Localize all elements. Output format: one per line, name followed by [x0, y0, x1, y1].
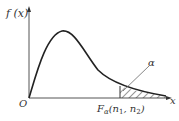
- origin-label: O: [19, 98, 27, 109]
- alpha-pointer-line: [123, 66, 149, 91]
- tail-area-label: α: [148, 57, 155, 68]
- tail-area-hatch: [120, 80, 168, 99]
- critical-value-label: Fα(n1, n2): [96, 103, 145, 116]
- density-curve: [29, 31, 166, 98]
- y-axis-label: f (x): [5, 7, 28, 20]
- f-distribution-diagram: f (x) O x α Fα(n1, n2): [0, 0, 179, 121]
- x-axis-label: x: [170, 95, 176, 106]
